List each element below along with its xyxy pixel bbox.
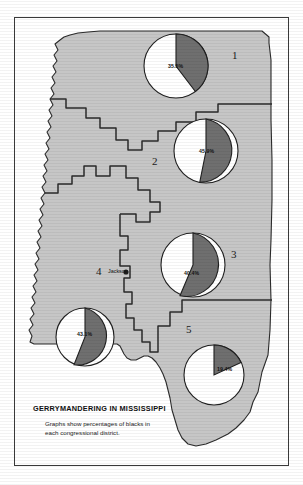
district-number-4: 4 (96, 265, 102, 277)
district-number-5: 5 (186, 323, 192, 335)
pie-chart-district-3 (161, 233, 225, 297)
caption-title: GERRYMANDERING IN MISSISSIPPI (33, 404, 178, 413)
gerrymandering-mississippi-figure: 35.5% 45.9% 40.4% 43.1% 19.4% 1 2 3 4 5 … (0, 0, 303, 485)
pie-label-district-1: 35.5% (168, 63, 183, 69)
pie-label-district-5: 19.4% (217, 366, 232, 372)
caption-block: GERRYMANDERING IN MISSISSIPPI Graphs sho… (33, 404, 178, 438)
pie-label-district-4: 43.1% (77, 331, 92, 337)
caption-body: Graphs show percentages of blacks in eac… (45, 420, 157, 438)
district-number-2: 2 (152, 155, 158, 167)
pie-label-district-2: 45.9% (199, 148, 214, 154)
pie-chart-district-5 (184, 345, 244, 405)
pie-chart-district-4 (56, 308, 114, 366)
district-number-1: 1 (232, 49, 238, 61)
district-number-3: 3 (231, 248, 237, 260)
city-label-jackson: Jackson (108, 268, 128, 274)
pie-label-district-3: 40.4% (184, 270, 199, 276)
